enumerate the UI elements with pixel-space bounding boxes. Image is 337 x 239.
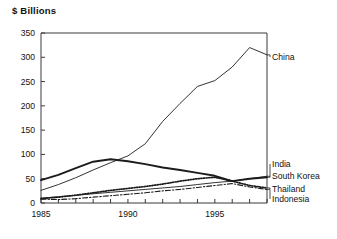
x-tick-label: 1985 [31,209,50,219]
x-axis-ticks [41,199,267,203]
y-axis-labels: 050100150200250300350 [21,28,36,208]
x-axis-labels: 198519901995 [31,209,224,219]
y-tick-label: 0 [30,198,35,208]
series-labels: ChinaIndiaSouth KoreaThailandIndonesia [272,52,320,204]
x-tick-label: 1995 [205,209,224,219]
y-tick-label: 150 [21,125,36,135]
plot-frame [41,33,267,203]
line-chart: 050100150200250300350 198519901995 China… [0,0,337,239]
series-line-indonesia [41,184,267,200]
series-label-china: China [272,52,295,62]
chart-svg: 050100150200250300350 198519901995 China… [0,0,337,239]
series-label-south-korea: South Korea [272,171,320,181]
y-tick-label: 300 [21,52,36,62]
y-tick-label: 50 [25,174,35,184]
y-tick-label: 250 [21,77,36,87]
y-axis-ticks [41,33,45,203]
series-label-thailand: Thailand [272,184,305,194]
series-lines [41,48,267,200]
series-label-india: India [272,159,291,169]
y-tick-label: 100 [21,149,36,159]
y-tick-label: 200 [21,101,36,111]
y-tick-label: 350 [21,28,36,38]
series-label-indonesia: Indonesia [272,194,309,204]
chart-page: $ Billions 050100150200250300350 1985199… [0,0,337,239]
x-tick-label: 1990 [118,209,137,219]
